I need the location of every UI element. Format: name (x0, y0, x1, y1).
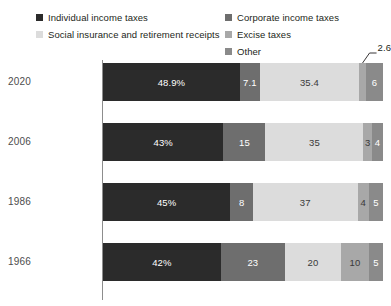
bar-segment-value-label: 43% (154, 137, 173, 148)
bar-segment[interactable]: 7.1 (240, 63, 260, 101)
legend-column-left: Individual income taxes Social insurance… (36, 9, 221, 43)
bar-track: 48.9%7.135.42.66 (103, 63, 383, 101)
bar-track: 45%83745 (103, 183, 383, 221)
bar-row: 200643%153534 (0, 123, 389, 161)
legend-label-corporate-income-taxes: Corporate income taxes (237, 9, 339, 26)
bar-segment-value-label: 6 (372, 77, 377, 88)
bar-row: 202048.9%7.135.42.662.6 (0, 63, 389, 101)
bar-segment-value-label: 5 (373, 197, 378, 208)
bar-segment[interactable]: 23 (221, 243, 285, 281)
bar-segment[interactable]: 20 (285, 243, 341, 281)
bar-segment-value-label: 35.4 (300, 77, 319, 88)
bar-segment-value-label: 10 (350, 257, 361, 268)
bar-segment[interactable]: 15 (223, 123, 265, 161)
legend-item-individual-income-taxes: Individual income taxes (36, 9, 221, 26)
bar-segment[interactable]: 4 (372, 123, 383, 161)
bar-segment[interactable]: 10 (341, 243, 369, 281)
bar-segment-value-label: 15 (239, 137, 250, 148)
bar-segment-value-label: 5 (373, 257, 378, 268)
bar-row-year-label: 1966 (8, 243, 94, 281)
legend-label-individual-income-taxes: Individual income taxes (48, 9, 148, 26)
bar-segment[interactable]: 8 (230, 183, 253, 221)
bar-track: 42%2320105 (103, 243, 383, 281)
legend-item-corporate-income-taxes: Corporate income taxes (225, 9, 385, 26)
bar-segment-value-label: 48.9% (158, 77, 185, 88)
legend-label-excise-taxes: Excise taxes (237, 26, 291, 43)
legend-swatch-excise-taxes (225, 31, 232, 38)
bar-segment-value-label: 23 (247, 257, 258, 268)
legend-item-excise-taxes: Excise taxes (225, 26, 385, 43)
legend-label-social-insurance: Social insurance and retirement receipts (48, 26, 220, 43)
bar-segment-value-label: 7.1 (243, 77, 257, 88)
bar-row-year-label: 2006 (8, 123, 94, 161)
bar-segment-value-label: 35 (309, 137, 320, 148)
bar-segment-value-label: 4 (375, 137, 380, 148)
bar-segment[interactable]: 48.9% (103, 63, 240, 101)
bar-segment-value-label: 45% (157, 197, 176, 208)
legend-swatch-social-insurance (36, 31, 43, 38)
bar-segment-value-label: 3 (365, 137, 370, 148)
bar-segment[interactable]: 35.4 (260, 63, 359, 101)
chart-plot-area: 202048.9%7.135.42.662.6200643%1535341986… (0, 54, 389, 306)
bar-segment[interactable]: 5 (369, 183, 383, 221)
bar-row: 198645%83745 (0, 183, 389, 221)
bar-segment-value-label: 37 (300, 197, 311, 208)
bar-segment[interactable]: 4 (358, 183, 369, 221)
bar-row-year-label: 2020 (8, 63, 94, 101)
bar-segment[interactable]: 35 (265, 123, 363, 161)
bar-track: 43%153534 (103, 123, 383, 161)
bar-segment[interactable]: 6 (366, 63, 383, 101)
legend-column-right: Corporate income taxes Excise taxes Othe… (225, 9, 385, 60)
bar-segment[interactable]: 5 (369, 243, 383, 281)
bar-row: 196642%2320105 (0, 243, 389, 281)
bar-segment-value-label: 42% (152, 257, 171, 268)
chart-legend: Individual income taxes Social insurance… (0, 0, 389, 54)
bar-row-year-label: 1986 (8, 183, 94, 221)
bar-segment[interactable]: 42% (103, 243, 221, 281)
bar-segment-value-label: 20 (308, 257, 319, 268)
bar-segment[interactable]: 45% (103, 183, 230, 221)
legend-item-social-insurance: Social insurance and retirement receipts (36, 26, 221, 43)
bar-segment[interactable]: 2.6 (359, 63, 366, 101)
legend-swatch-corporate-income-taxes (225, 14, 232, 21)
bar-segment[interactable]: 37 (253, 183, 358, 221)
bar-segment-value-label: 8 (239, 197, 244, 208)
bar-segment-value-label: 4 (360, 197, 365, 208)
bar-segment[interactable]: 43% (103, 123, 223, 161)
bar-segment[interactable]: 3 (363, 123, 371, 161)
legend-swatch-individual-income-taxes (36, 14, 43, 21)
